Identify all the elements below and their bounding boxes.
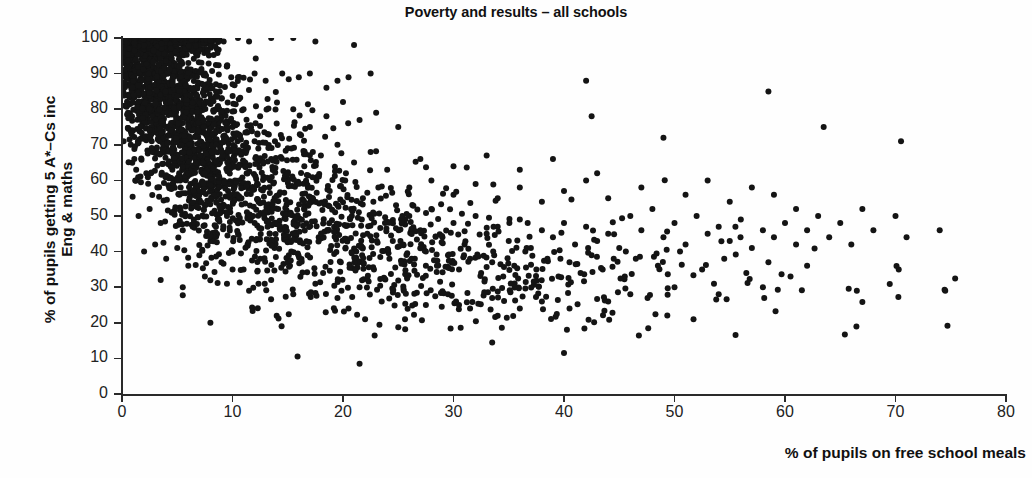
x-tick-label: 10 (209, 404, 257, 420)
y-tick-label: 90 (68, 65, 108, 81)
x-tick-label: 50 (651, 404, 699, 420)
x-tick-label: 20 (319, 404, 367, 420)
y-tick (114, 37, 121, 39)
x-tick-label: 60 (761, 404, 809, 420)
scatter-points-layer (122, 38, 1006, 394)
x-tick-label: 0 (98, 404, 146, 420)
y-tick-label: 10 (68, 349, 108, 365)
y-tick (114, 393, 121, 395)
y-tick-label: 60 (68, 171, 108, 187)
x-tick (232, 395, 234, 402)
y-tick (114, 180, 121, 182)
y-tick-label: 50 (68, 207, 108, 223)
chart-title: Poverty and results – all schools (0, 4, 1032, 20)
x-tick (121, 395, 123, 402)
x-tick (563, 395, 565, 402)
y-tick (114, 144, 121, 146)
x-tick-label: 40 (540, 404, 588, 420)
y-tick (114, 251, 121, 253)
x-tick (342, 395, 344, 402)
y-tick-label: 0 (68, 385, 108, 401)
y-tick (114, 73, 121, 75)
scatter-chart-figure: Poverty and results – all schools % of p… (0, 0, 1032, 478)
y-tick (114, 108, 121, 110)
y-tick-label: 30 (68, 278, 108, 294)
x-tick (784, 395, 786, 402)
plot-area (122, 38, 1006, 394)
x-tick (1005, 395, 1007, 402)
y-axis-line (121, 36, 123, 396)
x-axis-title: % of pupils on free school meals (785, 444, 1026, 462)
y-tick-label: 70 (68, 136, 108, 152)
y-tick-label: 100 (68, 29, 108, 45)
y-tick-label: 80 (68, 100, 108, 116)
x-tick-label: 70 (872, 404, 920, 420)
x-tick (674, 395, 676, 402)
x-tick (453, 395, 455, 402)
y-tick (114, 286, 121, 288)
y-tick-label: 40 (68, 243, 108, 259)
x-tick-label: 80 (982, 404, 1030, 420)
y-tick (114, 358, 121, 360)
y-tick (114, 322, 121, 324)
y-tick (114, 215, 121, 217)
x-tick (895, 395, 897, 402)
x-tick-label: 30 (430, 404, 478, 420)
y-tick-label: 20 (68, 314, 108, 330)
